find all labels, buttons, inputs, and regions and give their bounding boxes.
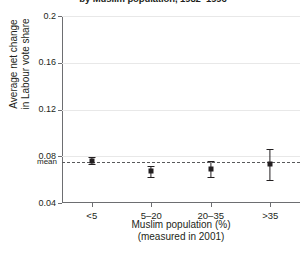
chart-figure: by Muslim population, 1982–1996 Average … — [0, 0, 306, 253]
gridline — [62, 156, 300, 157]
error-bar-cap — [148, 177, 155, 178]
x-tick-mark — [92, 203, 93, 207]
chart-title: by Muslim population, 1982–1996 — [0, 0, 306, 4]
gridline — [62, 63, 300, 64]
x-tick-mark — [211, 203, 212, 207]
y-tick-mark — [58, 203, 62, 204]
mean-label: mean — [37, 158, 57, 166]
y-tick-label: 0.12 — [38, 105, 56, 114]
x-tick-mark — [270, 203, 271, 207]
x-axis-title-line1: Muslim population (%) — [62, 219, 300, 231]
error-bar-cap — [267, 149, 274, 150]
error-bar-cap — [88, 164, 95, 165]
error-bar-cap — [207, 177, 214, 178]
y-axis-title: Average net change in Labour vote share — [8, 0, 32, 144]
y-axis-title-line2: in Labour vote share — [20, 0, 32, 144]
x-axis-title: Muslim population (%) (measured in 2001) — [62, 219, 300, 243]
mean-line — [62, 162, 300, 163]
y-tick-label: 0.16 — [38, 58, 56, 67]
x-axis-title-line2: (measured in 2001) — [62, 231, 300, 243]
gridline — [62, 110, 300, 111]
data-point[interactable] — [268, 162, 273, 167]
y-tick-mark — [58, 156, 62, 157]
error-bar-cap — [148, 166, 155, 167]
error-bar-cap — [267, 180, 274, 181]
y-tick-mark — [58, 16, 62, 17]
y-tick-mark — [58, 63, 62, 64]
error-bar-cap — [207, 161, 214, 162]
plot-area: 0.20.160.120.080.04 mean <55–2020–35>35 — [62, 16, 300, 203]
y-tick-label: 0.04 — [38, 199, 56, 208]
data-point[interactable] — [208, 167, 213, 172]
data-point[interactable] — [149, 169, 154, 174]
x-tick-mark — [151, 203, 152, 207]
data-point[interactable] — [89, 158, 94, 163]
y-tick-label: 0.2 — [43, 12, 56, 21]
x-axis-line — [62, 202, 300, 203]
y-axis-title-line1: Average net change — [8, 0, 20, 144]
gridline — [62, 16, 300, 17]
y-tick-mark — [58, 110, 62, 111]
